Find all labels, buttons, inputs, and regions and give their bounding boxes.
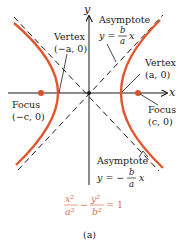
equation-minus: − (80, 199, 88, 210)
asymptote-bottom-eq-num: b (129, 167, 134, 177)
focus-right-title: Focus (148, 104, 176, 115)
hyperbola-left-branch (14, 23, 58, 165)
asymptote-top-title: Asymptote (98, 14, 151, 25)
figure-caption: (a) (83, 229, 96, 240)
hyperbola-right-branch (121, 20, 163, 168)
focus-left-coords: (−c, 0) (12, 111, 45, 122)
vertex-right-coords: (a, 0) (145, 69, 170, 80)
asymptote-bottom-eq-lhs: y = − (96, 172, 124, 183)
x-axis-label: x (169, 86, 176, 99)
asymptote-top-eq-den: a (120, 36, 125, 46)
vertex-left-coords: (−a, 0) (54, 43, 87, 54)
asymptote-top-eq-num: b (120, 25, 125, 35)
equation-rhs: = 1 (106, 199, 123, 210)
y-axis-label: y (83, 3, 91, 16)
focus-left-title: Focus (12, 99, 40, 110)
asymptote-top-eq-lhs: y = (98, 30, 115, 41)
origin-dot (87, 91, 91, 95)
hyperbola-diagram: y x Asymptote y = b a x Vertex (−a, 0) V… (0, 0, 180, 249)
asymptote-bottom-eq-den: a (129, 179, 134, 189)
asymptote-bottom-title: Asymptote (96, 155, 149, 166)
asymptote-top-eq-var: x (129, 30, 135, 41)
vertex-left-title: Vertex (53, 31, 86, 42)
equation-term2-den: b² (92, 206, 102, 217)
leader-vertex-left (59, 54, 67, 93)
equation-term1-num: x² (65, 193, 74, 204)
focus-left-dot (38, 90, 44, 96)
focus-right-coords: (c, 0) (148, 116, 173, 127)
leader-asymptote-top (107, 44, 116, 62)
equation-term2-num: y² (90, 193, 100, 204)
vertex-right-title: Vertex (144, 57, 177, 68)
focus-right-dot (135, 90, 141, 96)
leader-vertex-right (122, 74, 140, 92)
asymptote-bottom-eq-var: x (139, 172, 145, 183)
equation-term1-den: a² (65, 206, 75, 217)
